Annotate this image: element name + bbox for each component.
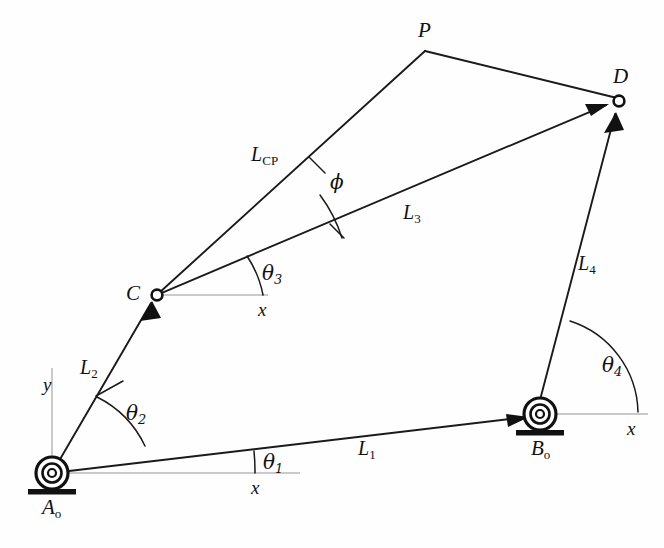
point-label-P: P: [418, 20, 431, 41]
axis-label-x-at-A0: x: [251, 478, 259, 497]
link-L2-line: [52, 303, 151, 473]
angle-label-theta4: θ4: [602, 355, 622, 378]
point-label-A0: Ao: [42, 497, 62, 520]
angle-arc-theta3: [247, 256, 263, 295]
pivot-B0-hole: [536, 410, 544, 418]
pivot-A0-ground-bar: [28, 489, 76, 495]
pivot-B0-ground-bar: [516, 430, 564, 436]
angle-label-theta2: θ2: [126, 403, 146, 426]
arrowheads-group: [140, 104, 624, 427]
point-label-D: D: [613, 66, 628, 87]
link-PD-line: [425, 51, 617, 98]
angle-arcs-group: [96, 157, 638, 473]
angle-arc-phi: [320, 195, 342, 238]
angle-label-theta1: θ1: [263, 452, 283, 475]
axis-label-x-at-B0: x: [627, 419, 635, 438]
reference-axes-group: [52, 295, 648, 473]
link-label-L4: L4: [578, 253, 596, 276]
link-L3-line: [159, 105, 606, 294]
axis-label-x-at-C: x: [258, 300, 266, 319]
fourbar-linkage-diagram: Ao Bo C D P L1 L2 L3 L4 LCP θ1 θ2 θ3 θ4 …: [0, 0, 664, 548]
angle-label-theta3: θ3: [262, 263, 282, 286]
axis-label-y-at-A0: y: [43, 375, 51, 394]
arrowhead-L2-at-C: [140, 301, 161, 321]
angle-tick-theta2: [96, 381, 123, 396]
link-label-L1: L1: [358, 438, 376, 461]
point-label-B0: Bo: [531, 438, 551, 461]
angle-label-phi: ϕ: [330, 172, 344, 192]
joint-C-marker: [152, 290, 163, 301]
link-L1-line: [52, 417, 527, 473]
link-label-LCP: LCP: [251, 144, 278, 167]
diagram-canvas: [0, 0, 664, 548]
angle-arc-theta1: [254, 451, 255, 473]
angle-tick-phi-upper: [309, 157, 325, 173]
link-label-L2: L2: [80, 357, 98, 380]
pivot-A0-hole: [48, 469, 56, 477]
link-label-L3: L3: [403, 202, 421, 225]
joint-D-marker: [614, 96, 625, 107]
point-label-C: C: [126, 283, 140, 304]
ground-pivot-A0: [28, 457, 76, 495]
ground-pivot-B0: [516, 398, 564, 436]
arrowhead-L3-at-D: [585, 104, 609, 116]
link-LCP-line: [159, 51, 425, 293]
